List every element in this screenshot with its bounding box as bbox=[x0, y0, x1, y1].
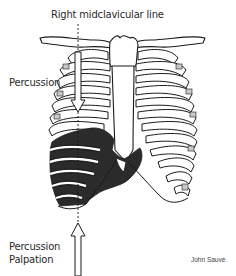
midclavicular-line-label: Right midclavicular line bbox=[51, 10, 164, 20]
percussion-label-lower: Percussion bbox=[9, 240, 60, 253]
ribcage-liver-illustration bbox=[0, 0, 236, 276]
manubrium bbox=[110, 36, 138, 68]
left-ribs bbox=[136, 50, 197, 196]
sternum bbox=[112, 66, 134, 162]
percussion-label-upper: Percussion bbox=[9, 78, 60, 88]
right-clavicle bbox=[40, 37, 113, 48]
left-clavicle bbox=[132, 37, 205, 48]
palpation-label: Palpation bbox=[9, 253, 60, 266]
diagram-canvas: Right midclavicular line Percussion Perc… bbox=[0, 0, 236, 276]
upward-percussion-palpation-arrow bbox=[71, 223, 85, 276]
author-credit: John Sauvé bbox=[191, 257, 225, 264]
percussion-palpation-label: Percussion Palpation bbox=[9, 240, 60, 266]
